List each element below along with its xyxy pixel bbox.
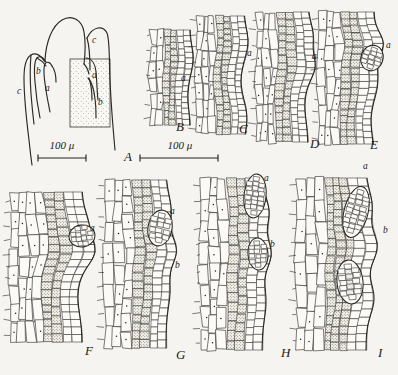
scale-bi-label: 100 μ [168, 139, 193, 151]
panel-G-section [96, 179, 176, 349]
panel-F-part-label-a-1: a [90, 223, 95, 233]
panel-C-section [188, 15, 248, 134]
panel-H-part-label-a-1: a [264, 173, 269, 183]
panel-E-part-label-a-2: a [363, 161, 368, 171]
figure-plate: 100 μ100 μ AcbacabBaCaDaEaaFaGabHabIb [0, 0, 398, 375]
panel-A-part-label-a-3: a [45, 83, 50, 93]
panel-D-section [248, 12, 315, 144]
panel-letter-C: C [239, 121, 248, 136]
panel-A-part-label-a-5: a [92, 70, 97, 80]
panel-E-part-label-a-1: a [386, 40, 391, 50]
panel-letter-G: G [176, 347, 186, 362]
panel-H-part-label-b-2: b [270, 239, 275, 249]
panel-letter-F: F [84, 343, 94, 358]
panel-I-part-label-b-1: b [383, 225, 388, 235]
panel-letter-I: I [377, 345, 383, 360]
panel-letter-A: A [123, 149, 132, 164]
panel-letter-H: H [280, 345, 291, 360]
panel-G-part-label-b-2: b [175, 260, 180, 270]
panel-B-part-label-a-1: a [181, 73, 186, 83]
panel-D-part-label-a-1: a [312, 51, 317, 61]
panel-letter-B: B [176, 119, 184, 134]
panel-A-part-label-b-6: b [98, 97, 103, 107]
panel-C-part-label-a-1: a [247, 48, 252, 58]
panel-letter-E: E [369, 137, 378, 152]
panel-A-part-label-b-2: b [36, 66, 41, 76]
figure-svg: 100 μ100 μ AcbacabBaCaDaEaaFaGabHabIb [0, 0, 398, 375]
panel-letter-D: D [309, 136, 320, 151]
scale-a-label: 100 μ [50, 139, 75, 151]
panel-G-part-label-a-1: a [170, 206, 175, 216]
